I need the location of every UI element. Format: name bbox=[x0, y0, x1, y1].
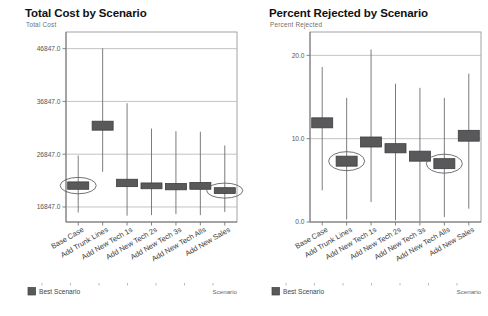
box-body bbox=[336, 156, 357, 166]
box-body bbox=[214, 188, 235, 194]
box-body bbox=[434, 159, 455, 169]
y-axis-tick-label: 10.0 bbox=[292, 135, 305, 142]
y-axis-tick-label: 16847.0 bbox=[37, 203, 61, 210]
box-body bbox=[68, 182, 89, 189]
box-body bbox=[385, 144, 406, 153]
box-plot-item bbox=[190, 132, 211, 215]
legend-label: Best Scenario bbox=[283, 288, 324, 295]
legend-swatch bbox=[272, 288, 280, 296]
legend-label: Best Scenario bbox=[39, 288, 80, 295]
x-axis-name: Scenario bbox=[457, 288, 482, 295]
box-body bbox=[458, 130, 479, 141]
box-plot-item bbox=[312, 67, 333, 190]
box-body bbox=[117, 179, 138, 186]
box-body bbox=[409, 151, 430, 161]
box-plot-item bbox=[409, 88, 430, 221]
box-plot-item bbox=[361, 50, 382, 203]
legend-swatch bbox=[28, 288, 36, 296]
box-plot-item bbox=[426, 98, 462, 217]
box-plot-item bbox=[329, 98, 365, 220]
box-plot-item bbox=[92, 48, 113, 172]
x-axis-name: Scenario bbox=[213, 288, 238, 295]
box-body bbox=[92, 121, 113, 130]
y-axis-tick-label: 0.0 bbox=[295, 218, 304, 225]
box-body bbox=[361, 137, 382, 147]
y-axis-tick-label: 20.0 bbox=[292, 52, 305, 59]
box-plot-item bbox=[165, 131, 186, 214]
y-axis-tick-label: 46847.0 bbox=[37, 45, 61, 52]
box-body bbox=[165, 183, 186, 189]
box-body bbox=[312, 118, 333, 128]
chart-panel-percent-rejected: Percent Rejected by Scenario Percent Rej… bbox=[244, 0, 488, 316]
plot-area-percent-rejected: 0.010.020.0Base CaseAdd Trunk LinesAdd N… bbox=[244, 0, 488, 316]
box-plot-item bbox=[141, 129, 162, 216]
chart-page: Total Cost by Scenario Total Cost 16847.… bbox=[0, 0, 488, 316]
box-body bbox=[141, 183, 162, 189]
box-plot-item bbox=[458, 74, 479, 209]
y-axis-tick-label: 36847.0 bbox=[37, 98, 61, 105]
y-axis-tick-label: 26847.0 bbox=[37, 151, 61, 158]
plot-area-total-cost: 16847.026847.036847.046847.0Base CaseAdd… bbox=[0, 0, 244, 316]
chart-panel-total-cost: Total Cost by Scenario Total Cost 16847.… bbox=[0, 0, 244, 316]
box-plot-item bbox=[117, 103, 138, 215]
box-plot-item bbox=[385, 84, 406, 221]
